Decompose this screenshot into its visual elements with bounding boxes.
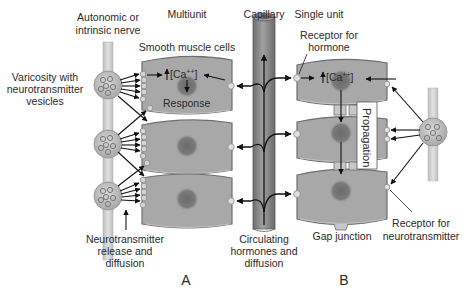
varicosity-3 (94, 182, 122, 210)
receptor-nt-line2: neurotransmitter (383, 230, 460, 242)
circulating-line1: Circulating (239, 233, 289, 245)
varicosity-label-line2: neurotransmitter (7, 83, 84, 95)
capillary-label: Capillary (244, 8, 286, 20)
varicosity-2 (94, 130, 122, 158)
smooth-muscle-diagram: [Ca++] Response (0, 0, 467, 295)
varicosity-label-line1: Varicosity with (12, 71, 78, 83)
circulating-line3: diffusion (245, 257, 284, 269)
gap-junction-label: Gap junction (313, 230, 372, 242)
receptor-nt-line1: Receptor for (392, 217, 450, 229)
propagation-label: Propagation (361, 108, 373, 167)
smooth-muscle-label: Smooth muscle cells (139, 41, 235, 53)
propagation-box: Propagation (357, 102, 377, 169)
varicosity-b (419, 118, 447, 146)
cell-b3 (297, 169, 387, 224)
nt-release-line1: Neurotransmitter (86, 233, 165, 245)
autonomic-nerve-a (94, 42, 122, 260)
hormone-flow-arrows (237, 55, 291, 225)
single-unit-title: Single unit (294, 8, 343, 20)
cell-a3 (142, 174, 232, 228)
nt-diffusion-arrows-b (391, 87, 423, 184)
nerve-label-line2: intrinsic nerve (76, 24, 141, 36)
response-label: Response (163, 97, 210, 109)
receptor-hormone-line2: hormone (308, 41, 350, 53)
cell-a2 (142, 120, 232, 174)
panel-a-label: A (181, 272, 191, 288)
varicosity-1 (94, 71, 122, 99)
autonomic-nerve-b (419, 88, 447, 181)
panel-b-label: B (339, 272, 348, 288)
varicosity-label-line3: vesicles (26, 95, 63, 107)
nerve-label-line1: Autonomic or (77, 11, 139, 23)
multiunit-title: Multiunit (167, 8, 206, 20)
nt-release-line3: diffusion (106, 257, 145, 269)
circulating-line2: hormones and (230, 245, 297, 257)
receptor-hormone-line1: Receptor for (300, 29, 358, 41)
nt-release-line2: release and (98, 245, 153, 257)
